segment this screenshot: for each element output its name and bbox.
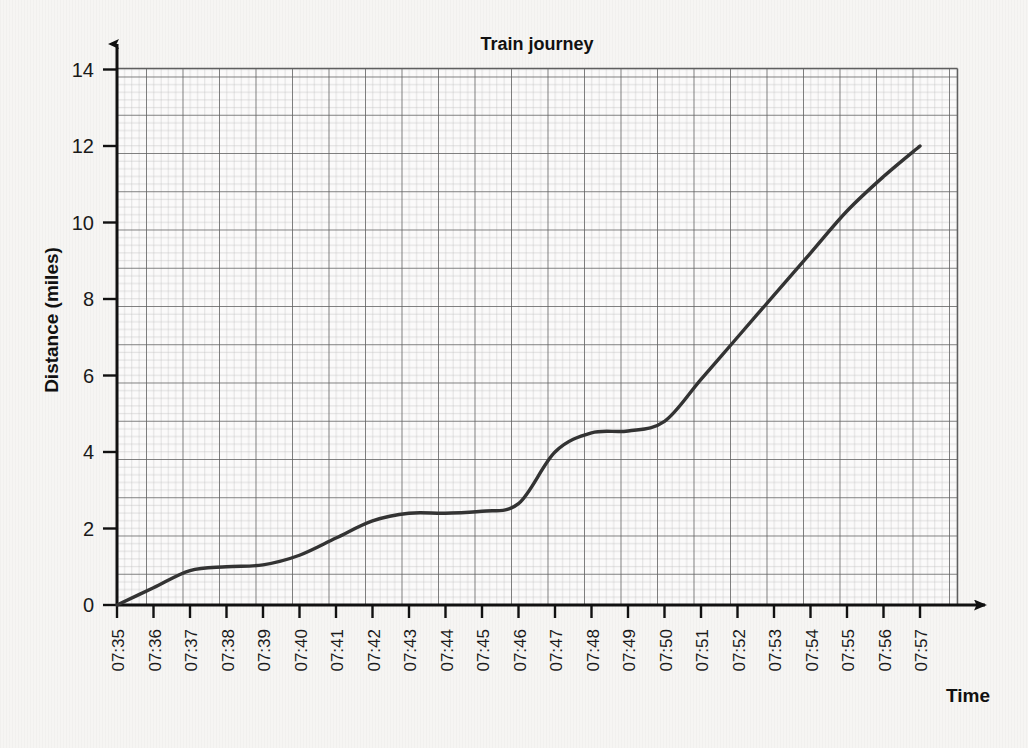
x-axis-title: Time xyxy=(946,685,990,706)
x-axis-ticks xyxy=(117,605,920,618)
x-tick-label: 07:43 xyxy=(401,629,420,672)
y-axis-title: Distance (miles) xyxy=(41,247,62,393)
x-tick-labels: 07:3507:3607:3707:3807:3907:4007:4107:42… xyxy=(109,629,931,672)
y-tick-label: 2 xyxy=(83,518,94,540)
chart-title: Train journey xyxy=(480,34,593,54)
x-tick-label: 07:47 xyxy=(547,629,566,672)
x-tick-label: 07:54 xyxy=(803,629,822,672)
x-tick-label: 07:57 xyxy=(912,629,931,672)
x-tick-label: 07:45 xyxy=(474,629,493,672)
x-tick-label: 07:38 xyxy=(219,629,238,672)
x-tick-label: 07:52 xyxy=(730,629,749,672)
y-tick-label: 0 xyxy=(83,594,94,616)
y-tick-labels: 02468101214 xyxy=(72,59,94,617)
train-journey-chart-figure: 02468101214 07:3507:3607:3707:3807:3907:… xyxy=(0,0,1028,748)
x-tick-label: 07:37 xyxy=(182,629,201,672)
y-tick-label: 4 xyxy=(83,441,94,463)
y-tick-label: 8 xyxy=(83,288,94,310)
y-axis-ticks xyxy=(103,70,117,606)
chart-canvas: 02468101214 07:3507:3607:3707:3807:3907:… xyxy=(0,0,1028,748)
x-tick-label: 07:36 xyxy=(146,629,165,672)
x-tick-label: 07:51 xyxy=(693,629,712,672)
x-tick-label: 07:41 xyxy=(328,629,347,672)
x-tick-label: 07:44 xyxy=(438,629,457,672)
y-tick-label: 12 xyxy=(72,135,94,157)
x-tick-label: 07:55 xyxy=(839,629,858,672)
x-tick-label: 07:56 xyxy=(876,629,895,672)
y-tick-label: 14 xyxy=(72,59,94,81)
x-tick-label: 07:46 xyxy=(511,629,530,672)
x-tick-label: 07:53 xyxy=(766,629,785,672)
y-tick-label: 6 xyxy=(83,365,94,387)
x-tick-label: 07:48 xyxy=(584,629,603,672)
y-tick-label: 10 xyxy=(72,212,94,234)
x-tick-label: 07:39 xyxy=(255,629,274,672)
x-tick-label: 07:50 xyxy=(657,629,676,672)
x-tick-label: 07:49 xyxy=(620,629,639,672)
x-tick-label: 07:40 xyxy=(292,629,311,672)
x-tick-label: 07:35 xyxy=(109,629,128,672)
plot-grid xyxy=(117,69,958,606)
x-tick-label: 07:42 xyxy=(365,629,384,672)
